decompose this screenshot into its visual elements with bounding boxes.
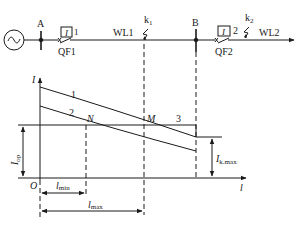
curve-2-label: 2 xyxy=(69,107,74,118)
protection-diagram: A I 1 QF1 WL1 k1 B I 2 QF2 k2 WL2 I l O … xyxy=(0,0,304,231)
bus-b-label: B xyxy=(192,17,199,28)
line-wl1-label: WL1 xyxy=(113,27,134,38)
breaker-qf1-label: QF1 xyxy=(58,46,76,57)
relay-1-number: 1 xyxy=(74,27,79,37)
curve-1-label: 1 xyxy=(71,89,76,100)
characteristic-plot xyxy=(18,44,246,220)
iop-label: Iop xyxy=(9,154,22,166)
line-3-label: 3 xyxy=(176,113,181,124)
breaker-qf2-icon xyxy=(215,38,229,43)
line-wl2-label: WL2 xyxy=(259,27,280,38)
fault-k2-label: k2 xyxy=(245,12,254,25)
bus-a-label: A xyxy=(37,18,45,29)
x-axis-label: l xyxy=(240,182,243,193)
point-n-label: N xyxy=(86,113,95,124)
ikmax-label: Ik.max xyxy=(215,153,237,166)
line-3-iop-setting xyxy=(18,125,196,137)
y-axis-label: I xyxy=(31,74,36,85)
origin-label: O xyxy=(30,180,37,191)
breaker-qf1-icon xyxy=(58,38,71,43)
bus-b-node xyxy=(194,38,198,42)
relay-2-symbol: I xyxy=(221,27,226,37)
lmax-label: lmax xyxy=(88,199,103,211)
circuit-diagram xyxy=(4,26,294,52)
breaker-qf2-label: QF2 xyxy=(215,46,233,57)
generator-icon xyxy=(4,30,24,50)
relay-2-number: 2 xyxy=(233,25,238,36)
curve-2 xyxy=(40,106,196,151)
lmin-label: lmin xyxy=(56,180,70,192)
fault-k1-label: k1 xyxy=(144,14,153,27)
relay-1-symbol: I xyxy=(64,28,69,38)
bus-a-node xyxy=(39,38,43,42)
point-m-label: M xyxy=(146,113,156,124)
